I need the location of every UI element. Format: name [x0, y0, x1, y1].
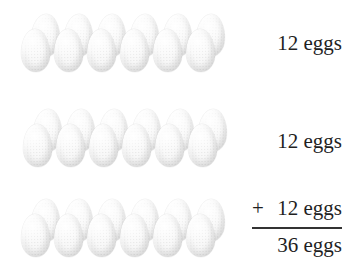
row-3-label: 12 eggs: [277, 196, 342, 220]
sum-block: + 12 eggs 36 eggs: [252, 196, 342, 257]
sum-rule-line: [252, 227, 342, 229]
plus-sign: +: [252, 196, 264, 220]
total-label: 36 eggs: [252, 233, 342, 257]
egg-row-1: [21, 14, 231, 72]
row-2-label: 12 eggs: [277, 129, 342, 153]
egg-row-2: [23, 109, 233, 167]
sum-addend-line: + 12 eggs: [252, 196, 342, 220]
egg-row-3: [21, 199, 231, 257]
egg-addition-figure: 12 eggs 12 eggs + 12 eggs 36 eggs: [0, 0, 364, 273]
row-1-label: 12 eggs: [277, 31, 342, 55]
